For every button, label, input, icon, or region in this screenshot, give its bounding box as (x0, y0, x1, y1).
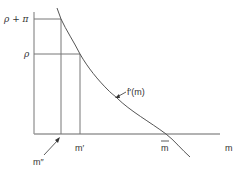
x-label-m-double-prime: m″ (33, 157, 44, 167)
y-label-rho: ρ (23, 49, 30, 59)
marginal-curve-diagram: ρ + π ρ f′(m) m′ m m m″ (0, 0, 244, 174)
arrowhead-icon (115, 94, 120, 98)
x-axis-label-m: m (225, 143, 233, 153)
y-label-rho-plus-pi: ρ + π (3, 14, 30, 24)
x-label-m-prime: m′ (75, 143, 84, 153)
svg-text:m: m (161, 143, 169, 153)
x-label-m-bar: m (161, 141, 169, 153)
curve-label-f-prime: f′(m) (127, 87, 145, 97)
m-double-prime-arrow (44, 140, 58, 155)
